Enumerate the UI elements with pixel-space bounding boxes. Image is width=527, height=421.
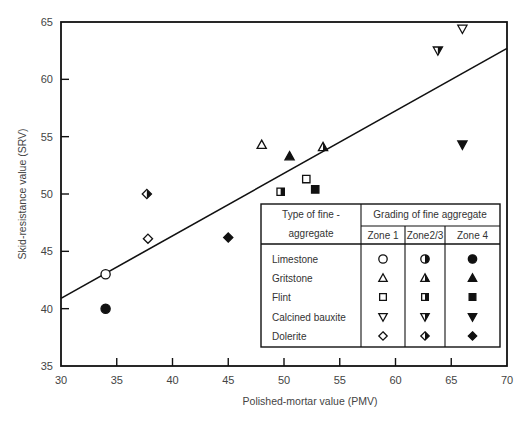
- x-tick-label: 70: [501, 374, 513, 386]
- y-tick-label: 35: [41, 360, 53, 372]
- legend-header-type: Type of fine -: [282, 209, 340, 220]
- data-point-triangle-up-solid: [285, 152, 294, 160]
- x-tick-label: 60: [389, 374, 401, 386]
- legend-row-label: Gritstone: [272, 273, 313, 284]
- legend-header-grading: Grading of fine aggregate: [373, 209, 487, 220]
- legend-row-label: Limestone: [272, 254, 319, 265]
- y-tick-label: 45: [41, 245, 53, 257]
- legend-row-label: Calcined bauxite: [272, 312, 346, 323]
- legend-marker-square-solid: [469, 294, 476, 301]
- data-point-triangle-up-half: [318, 142, 327, 150]
- data-point-square-solid: [312, 186, 319, 193]
- legend-marker-circle-open: [379, 255, 387, 263]
- y-tick-label: 65: [41, 16, 53, 28]
- x-tick-label: 45: [222, 374, 234, 386]
- data-point-circle-solid: [101, 304, 110, 313]
- y-tick-label: 40: [41, 303, 53, 315]
- x-tick-label: 35: [111, 374, 123, 386]
- legend-marker-circle-solid: [468, 255, 476, 263]
- x-tick-label: 30: [55, 374, 67, 386]
- x-axis-title: Polished-mortar value (PMV): [243, 395, 378, 407]
- y-tick-label: 50: [41, 188, 53, 200]
- legend-marker-square-half: [422, 294, 429, 301]
- data-point-diamond-open: [143, 234, 152, 243]
- legend-table: Type of fine -aggregateGrading of fine a…: [261, 204, 500, 347]
- data-point-diamond-half: [142, 189, 151, 198]
- data-point-circle-open: [101, 270, 110, 279]
- legend-zone-header: Zone2/3: [407, 230, 444, 241]
- legend-marker-circle-half: [421, 255, 429, 263]
- x-tick-label: 50: [278, 374, 290, 386]
- y-axis-title: Skid-resistance value (SRV): [16, 128, 28, 259]
- x-tick-label: 55: [334, 374, 346, 386]
- data-point-triangle-down-half: [433, 47, 442, 55]
- data-point-triangle-down-solid: [458, 141, 467, 149]
- legend-marker-square-open: [380, 294, 387, 301]
- y-tick-label: 55: [41, 131, 53, 143]
- legend-row-label: Dolerite: [272, 331, 307, 342]
- scatter-chart: 30354045505560657035404550556065 Polishe…: [0, 0, 527, 421]
- data-point-triangle-up-open: [257, 140, 266, 148]
- data-point-square-open: [303, 175, 310, 182]
- x-tick-label: 40: [166, 374, 178, 386]
- legend-zone-header: Zone 4: [457, 230, 489, 241]
- legend-row-label: Flint: [272, 292, 291, 303]
- legend-zone-header: Zone 1: [367, 230, 399, 241]
- x-tick-label: 65: [445, 374, 457, 386]
- data-point-square-half: [277, 188, 284, 195]
- y-tick-label: 60: [41, 73, 53, 85]
- legend-header-type-2: aggregate: [288, 228, 333, 239]
- data-point-triangle-down-open: [458, 25, 467, 33]
- data-point-diamond-solid: [224, 233, 233, 242]
